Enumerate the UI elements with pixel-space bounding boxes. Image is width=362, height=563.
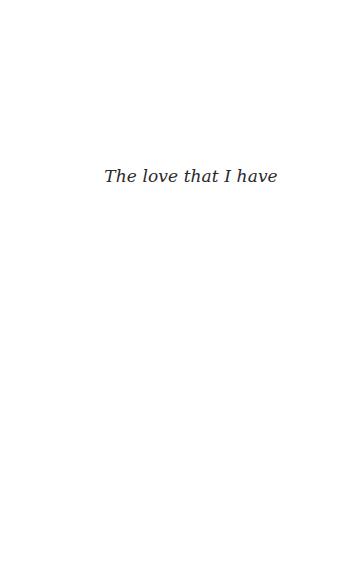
book-page: The love that I have [0, 0, 362, 563]
epigraph-text: The love that I have [0, 166, 362, 186]
